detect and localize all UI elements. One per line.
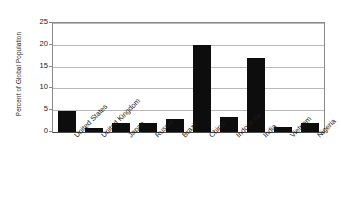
- bar-chart-figure: Percent of Global Population 0510152025 …: [0, 0, 341, 220]
- y-axis-tick-labels: 0510152025: [28, 22, 48, 131]
- y-tick-label: 25: [40, 18, 48, 26]
- y-tick-label: 0: [44, 127, 48, 135]
- y-tick-label: 15: [40, 62, 48, 70]
- y-tick-label: 20: [40, 40, 48, 48]
- bar: [193, 45, 211, 132]
- y-tick-label: 10: [40, 83, 48, 91]
- y-axis-title: Percent of Global Population: [13, 18, 25, 130]
- x-axis-tick-labels: United StatesUnited KingdomJapanRussiaBr…: [52, 133, 323, 213]
- bar: [58, 111, 76, 132]
- y-tick-label: 5: [44, 105, 48, 113]
